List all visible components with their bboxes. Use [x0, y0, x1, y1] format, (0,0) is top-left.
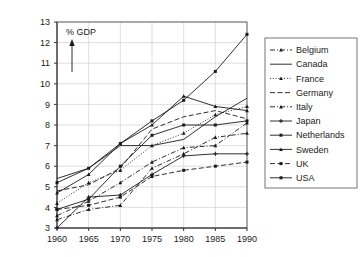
x-tick-label: 1965	[79, 234, 99, 244]
legend-label: Canada	[296, 59, 328, 69]
y-axis-unit-label: % GDP	[66, 27, 96, 37]
data-point-marker	[280, 162, 283, 165]
data-point-marker	[119, 142, 122, 145]
y-tick-label: 9	[45, 100, 50, 110]
y-tick-label: 13	[40, 17, 50, 27]
data-point-marker	[214, 70, 217, 73]
y-tick-label: 5	[45, 182, 50, 192]
y-tick-label: 7	[45, 141, 50, 151]
legend-label: UK	[296, 159, 309, 169]
data-point-marker	[151, 119, 154, 122]
chart-canvas: 345678910111213 196019651970197519801985…	[0, 0, 360, 257]
data-point-marker	[182, 124, 185, 127]
legend-label: Italy	[296, 102, 313, 112]
data-point-marker	[56, 208, 59, 211]
x-tick-label: 1985	[205, 234, 225, 244]
y-tick-label: 10	[40, 79, 50, 89]
data-point-marker	[87, 204, 90, 207]
data-point-marker	[182, 99, 185, 102]
y-tick-label: 8	[45, 120, 50, 130]
legend-label: USA	[296, 173, 315, 183]
data-point-marker	[246, 161, 249, 164]
data-point-marker	[280, 134, 283, 137]
x-tick-label: 1980	[174, 234, 194, 244]
data-point-marker	[87, 198, 90, 201]
data-point-marker	[151, 134, 154, 137]
data-point-marker	[87, 167, 90, 170]
legend: BelgiumCanadaFranceGermanyItalyJapanNeth…	[265, 38, 357, 188]
data-point-marker	[214, 124, 217, 127]
y-tick-label: 12	[40, 38, 50, 48]
y-tick-label: 3	[45, 223, 50, 233]
x-tick-label: 1970	[110, 234, 130, 244]
data-point-marker	[246, 33, 249, 36]
legend-label: Netherlands	[296, 130, 345, 140]
gdp-line-chart: 345678910111213 196019651970197519801985…	[0, 0, 360, 257]
legend-label: France	[296, 74, 324, 84]
x-tick-label: 1960	[47, 234, 67, 244]
data-point-marker	[119, 196, 122, 199]
legend-label: Japan	[296, 116, 321, 126]
data-point-marker	[214, 165, 217, 168]
data-point-marker	[246, 119, 249, 122]
y-tick-label: 11	[41, 58, 50, 68]
data-point-marker	[151, 175, 154, 178]
x-tick-label: 1990	[237, 234, 257, 244]
data-point-marker	[280, 176, 283, 179]
data-point-marker	[182, 169, 185, 172]
data-point-marker	[56, 181, 59, 184]
y-tick-label: 6	[45, 161, 50, 171]
legend-label: Sweden	[296, 145, 329, 155]
legend-label: Germany	[296, 88, 334, 98]
data-point-marker	[119, 165, 122, 168]
x-tick-label: 1975	[142, 234, 162, 244]
legend-label: Belgium	[296, 45, 329, 55]
y-tick-label: 4	[45, 203, 50, 213]
